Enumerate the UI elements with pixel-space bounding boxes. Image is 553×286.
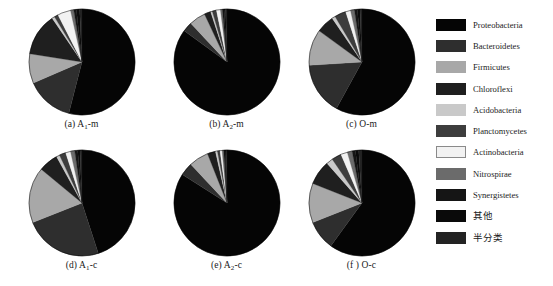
legend-label: Proteobacteria [473, 20, 523, 30]
pie-chart-c-caption: (c) O-m [290, 118, 433, 130]
caption-index: (e) [211, 260, 222, 270]
pie-chart-a: (a) A1-m [10, 2, 153, 145]
pie-chart-a-canvas [10, 6, 153, 118]
legend-swatch [436, 19, 466, 31]
legend-swatch [436, 83, 466, 95]
caption-sample-subscript: 1 [84, 123, 88, 131]
caption-sample-subscript: 2 [231, 264, 235, 272]
legend-row: 半分类 [436, 227, 553, 248]
legend-row: Bacteroidetes [436, 35, 553, 56]
caption-sample-suffix: -c [369, 260, 377, 270]
pie-chart-f-caption: (f ) O-c [290, 259, 433, 271]
legend-swatch [436, 168, 466, 180]
legend-label: Planctomycetes [473, 126, 527, 136]
legend-row: Firmicutes [436, 57, 553, 78]
caption-sample-name: A [79, 260, 86, 270]
caption-sample-name: A [224, 260, 231, 270]
caption-sample-suffix: -m [233, 119, 244, 129]
pie-chart-d-caption: (d) A1-c [10, 259, 153, 271]
caption-sample-suffix: -c [234, 260, 242, 270]
caption-index: (c) [346, 119, 357, 129]
pie-chart-c-canvas [290, 6, 433, 118]
legend: ProteobacteriaBacteroidetesFirmicutesChl… [436, 14, 553, 248]
pie-chart-b: (b) A2-m [155, 2, 298, 145]
pie-chart-c: (c) O-m [290, 2, 433, 145]
legend-row: Chloroflexi [436, 78, 553, 99]
legend-swatch [436, 189, 466, 201]
legend-row: Planctomycetes [436, 120, 553, 141]
legend-swatch [436, 104, 466, 116]
caption-index: (d) [66, 260, 77, 270]
legend-label: Nitrospirae [473, 169, 512, 179]
caption-sample-name: O [362, 260, 369, 270]
caption-index: (b) [209, 119, 220, 129]
legend-label: 半分类 [473, 233, 503, 243]
caption-sample-subscript: 1 [86, 264, 90, 272]
caption-sample-subscript: 2 [229, 123, 233, 131]
legend-label: Acidobacteria [473, 105, 521, 115]
caption-sample-suffix: -c [90, 260, 98, 270]
caption-index: (a) [64, 119, 75, 129]
legend-swatch [436, 232, 466, 244]
legend-label: Bacteroidetes [473, 41, 520, 51]
caption-sample-suffix: -m [88, 119, 99, 129]
legend-label: Synergistetes [473, 190, 519, 200]
legend-row: 其他 [436, 206, 553, 227]
legend-label: Chloroflexi [473, 84, 513, 94]
legend-swatch [436, 146, 466, 158]
legend-row: Synergistetes [436, 184, 553, 205]
caption-sample-suffix: -m [366, 119, 377, 129]
charts-grid: (a) A1-m(b) A2-m(c) O-m(d) A1-c(e) A2-c(… [0, 0, 430, 286]
legend-swatch [436, 125, 466, 137]
legend-row: Nitrospirae [436, 163, 553, 184]
pie-chart-e: (e) A2-c [155, 143, 298, 286]
legend-swatch [436, 61, 466, 73]
legend-swatch [436, 40, 466, 52]
legend-label: Actinobacteria [473, 147, 524, 157]
legend-label: Firmicutes [473, 62, 510, 72]
pie-chart-f-canvas [290, 147, 433, 259]
pie-chart-figure: (a) A1-m(b) A2-m(c) O-m(d) A1-c(e) A2-c(… [0, 0, 553, 286]
pie-chart-a-caption: (a) A1-m [10, 118, 153, 130]
pie-chart-d-canvas [10, 147, 153, 259]
caption-index: (f ) [347, 260, 359, 270]
legend-swatch [436, 210, 466, 222]
legend-row: Proteobacteria [436, 14, 553, 35]
pie-chart-e-canvas [155, 147, 298, 259]
legend-label: 其他 [473, 211, 493, 221]
pie-chart-b-canvas [155, 6, 298, 118]
pie-chart-e-caption: (e) A2-c [155, 259, 298, 271]
legend-row: Acidobacteria [436, 99, 553, 120]
legend-row: Actinobacteria [436, 142, 553, 163]
pie-chart-d: (d) A1-c [10, 143, 153, 286]
pie-chart-b-caption: (b) A2-m [155, 118, 298, 130]
pie-chart-f: (f ) O-c [290, 143, 433, 286]
